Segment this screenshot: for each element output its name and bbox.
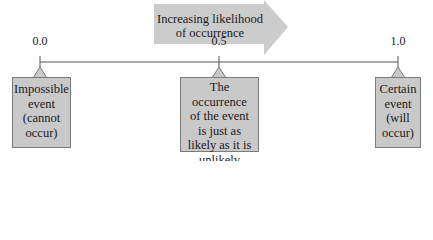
callout-line: likely as it is — [181, 138, 258, 153]
callout-line: is just as — [181, 124, 258, 139]
callout-line: Impossible — [13, 82, 70, 97]
callout-line: (will — [376, 111, 420, 126]
callout-even-chance: The occurrence of the event is just as l… — [180, 77, 259, 152]
callout-line: The occurrence — [181, 80, 258, 109]
callout-line: occur) — [376, 126, 420, 141]
callout-certain-event: Certain event (will occur) — [375, 77, 421, 148]
callout-line: occur) — [13, 126, 70, 141]
callout-line: unlikely — [181, 153, 258, 162]
callout-line: event — [13, 97, 70, 112]
callout-impossible-event: Impossible event (cannot occur) — [12, 77, 71, 148]
callout-line: (cannot — [13, 111, 70, 126]
callout-line: Certain — [376, 82, 420, 97]
callout-line: of the event — [181, 109, 258, 124]
callout-line: event — [376, 97, 420, 112]
